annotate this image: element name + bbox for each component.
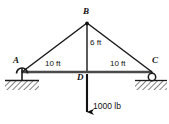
roller-support-wheel-c [148, 73, 155, 80]
ground-hatching-c [135, 81, 167, 90]
dimension-label-bd: 6 ft [90, 38, 101, 47]
dimension-label-dc: 10 ft [110, 59, 126, 68]
joint-b-node [85, 22, 89, 26]
truss-diagram-canvas [0, 0, 169, 124]
node-label-d: D [77, 72, 84, 82]
node-label-b: B [83, 6, 89, 16]
truss-figure: A B C D 10 ft 10 ft 6 ft 1000 lb [0, 0, 169, 124]
node-label-a: A [13, 55, 19, 65]
dimension-label-ad: 10 ft [45, 59, 61, 68]
support-ground-c [135, 81, 167, 91]
pin-support-a [17, 68, 28, 81]
support-ground-a [5, 81, 39, 91]
roller-support-c [148, 72, 155, 81]
node-label-c: C [152, 55, 158, 65]
truss-members [22, 23, 152, 72]
ground-hatching-a [5, 81, 39, 90]
load-label-1000lb: 1000 lb [93, 101, 121, 111]
